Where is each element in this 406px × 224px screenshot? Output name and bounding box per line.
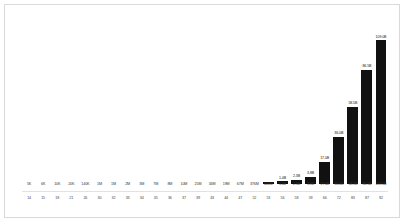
axis-tick-index: 58: [289, 197, 303, 201]
bar-column[interactable]: [106, 12, 120, 184]
bar-column[interactable]: [36, 12, 50, 184]
axis-tick-index: 15: [36, 197, 50, 201]
axis-tick-size: 67M: [233, 183, 247, 187]
bar-column[interactable]: 86.5B: [360, 12, 374, 184]
axis-tick-index: 35: [149, 197, 163, 201]
axis-tick-index: 26: [78, 197, 92, 201]
axis-tick-size: 36.0B: [332, 183, 346, 187]
axis-tick-size: 7M: [149, 183, 163, 187]
axis-tick-size: 2M: [121, 183, 135, 187]
axis-tick-size: 1M: [92, 183, 106, 187]
chart-plot-area: 1.4B2.3B3.8B17.0B36.0B58.5B86.5B109.0B 5…: [10, 10, 394, 212]
bar-column[interactable]: [247, 12, 261, 184]
axis-row-size: 5K6K10K20K140K1M1M2M3M7M8M10M25M34M19M67…: [22, 178, 388, 192]
bar[interactable]: [376, 40, 387, 184]
bar-column[interactable]: 36.0B: [332, 12, 346, 184]
axis-tick-size: 3M: [135, 183, 149, 187]
axis-tick-size: 19M: [219, 183, 233, 187]
bar-column[interactable]: [64, 12, 78, 184]
axis-tick-size: 5K: [22, 183, 36, 187]
axis-tick-index: 92: [374, 197, 388, 201]
bar-column[interactable]: [177, 12, 191, 184]
axis-tick-size: 58.5B: [346, 183, 360, 187]
bar-column[interactable]: 58.5B: [346, 12, 360, 184]
bar-value-label: 58.5B: [348, 102, 357, 106]
axis-tick-size: 376M: [247, 183, 261, 187]
axis-tick-index: 66: [318, 197, 332, 201]
bar[interactable]: [347, 107, 358, 184]
axis-tick-index: 56: [275, 197, 289, 201]
axis-tick-index: 30: [92, 197, 106, 201]
bar-column[interactable]: [121, 12, 135, 184]
axis-tick-index: 32: [106, 197, 120, 201]
axis-tick-index: 47: [233, 197, 247, 201]
chart-frame: 1.4B2.3B3.8B17.0B36.0B58.5B86.5B109.0B 5…: [4, 4, 400, 218]
axis-tick-size: 6K: [36, 183, 50, 187]
bar-value-label: 3.8B: [307, 172, 314, 176]
axis-tick-index: 18: [50, 197, 64, 201]
bar-column[interactable]: [163, 12, 177, 184]
bar-value-label: 86.5B: [362, 65, 371, 69]
bar[interactable]: [333, 137, 344, 184]
axis-tick-index: 52: [247, 197, 261, 201]
bar-series: 1.4B2.3B3.8B17.0B36.0B58.5B86.5B109.0B: [22, 12, 388, 184]
axis-tick-size: 10M: [177, 183, 191, 187]
axis-row-index: 1415182126303233343536373943444752535658…: [22, 192, 388, 205]
axis-tick-size: 17.0B: [318, 183, 332, 187]
axis-tick-size: 140K: [78, 183, 92, 187]
bar-column[interactable]: [92, 12, 106, 184]
bar-value-label: 36.0B: [334, 132, 343, 136]
bar-column[interactable]: [191, 12, 205, 184]
bar-column[interactable]: 17.0B: [318, 12, 332, 184]
bar-column[interactable]: 3.8B: [304, 12, 318, 184]
category-axis: 5K6K10K20K140K1M1M2M3M7M8M10M25M34M19M67…: [22, 178, 388, 206]
axis-tick-index: 44: [219, 197, 233, 201]
axis-tick-size: 10K: [50, 183, 64, 187]
bar-value-label: 109.0B: [376, 36, 387, 40]
bar[interactable]: [361, 70, 372, 184]
axis-tick-index: 83: [346, 197, 360, 201]
axis-tick-index: 34: [135, 197, 149, 201]
axis-tick-index: 39: [191, 197, 205, 201]
axis-tick-size: 109.0B: [374, 183, 388, 187]
axis-tick-size: 3.8B: [304, 183, 318, 187]
bar-column[interactable]: [22, 12, 36, 184]
axis-tick-index: 87: [360, 197, 374, 201]
axis-tick-size: 34M: [205, 183, 219, 187]
bar-column[interactable]: 1.4B: [275, 12, 289, 184]
bar-column[interactable]: [261, 12, 275, 184]
bar-column[interactable]: [78, 12, 92, 184]
bar-column[interactable]: [219, 12, 233, 184]
axis-tick-index: 72: [332, 197, 346, 201]
axis-tick-size: 8M: [163, 183, 177, 187]
axis-tick-index: 21: [64, 197, 78, 201]
axis-tick-size: 620M: [261, 183, 275, 187]
axis-tick-size: 1.4B: [275, 183, 289, 187]
axis-tick-index: 43: [205, 197, 219, 201]
axis-tick-size: 86.5B: [360, 183, 374, 187]
bar-column[interactable]: [50, 12, 64, 184]
axis-tick-size: 20K: [64, 183, 78, 187]
bar-column[interactable]: [149, 12, 163, 184]
bar-value-label: 17.0B: [320, 157, 329, 161]
axis-tick-index: 33: [121, 197, 135, 201]
axis-tick-size: 25M: [191, 183, 205, 187]
bar-column[interactable]: 2.3B: [289, 12, 303, 184]
axis-tick-index: 36: [163, 197, 177, 201]
axis-tick-index: 37: [177, 197, 191, 201]
bar-column[interactable]: 109.0B: [374, 12, 388, 184]
axis-tick-size: 1M: [106, 183, 120, 187]
axis-tick-index: 59: [304, 197, 318, 201]
axis-tick-index: 53: [261, 197, 275, 201]
axis-tick-size: 2.3B: [289, 183, 303, 187]
bar-column[interactable]: [233, 12, 247, 184]
axis-tick-index: 14: [22, 197, 36, 201]
bar-column[interactable]: [205, 12, 219, 184]
bar-column[interactable]: [135, 12, 149, 184]
